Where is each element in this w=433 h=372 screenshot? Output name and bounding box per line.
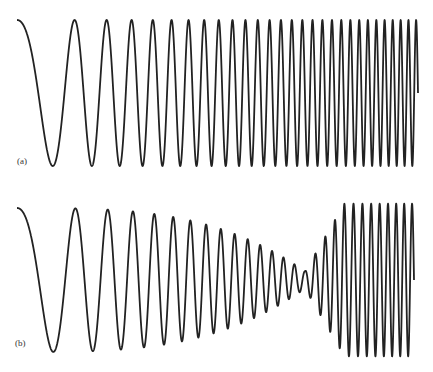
panel-b: (b) [0,186,433,372]
panel-b-label: (b) [15,338,26,348]
panel-a-label: (a) [17,156,27,166]
chirp-waveform-a [0,0,433,186]
panel-a: (a) [0,0,433,186]
chirp-waveform-b [0,186,433,372]
